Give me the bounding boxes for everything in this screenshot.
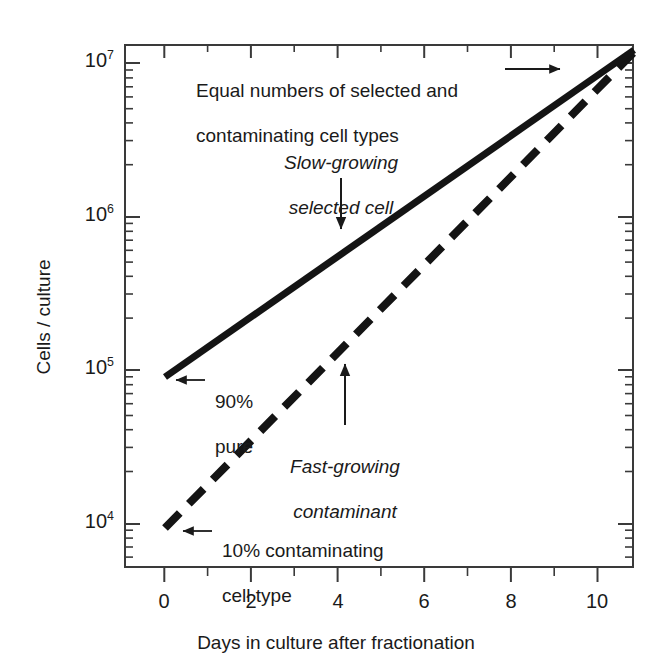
xtick-label-10: 10 [567, 591, 627, 611]
annotation-slow-growing-line1: Slow-growing [251, 152, 431, 174]
annotation-ninety-pure: 90% pure [215, 369, 325, 481]
x-axis-title: Days in culture after fractionation [0, 632, 672, 654]
annotation-slow-growing-line2: selected cell [251, 197, 431, 219]
chart-figure: 107 106 105 104 0 2 4 6 8 10 Days in cul… [0, 0, 672, 665]
xtick-label-0: 0 [134, 591, 194, 611]
annotation-ten-contaminating-line1: 10% contaminating [222, 540, 452, 562]
ytick-label-1e6: 106 [52, 204, 114, 224]
annotation-ten-contaminating-line2: cell type [222, 585, 452, 607]
ytick-label-1e4: 104 [52, 511, 114, 531]
annotation-slow-growing: Slow-growing selected cell [251, 130, 431, 242]
annotation-ninety-pure-line2: pure [215, 436, 325, 458]
ytick-label-1e5: 105 [52, 357, 114, 377]
annotation-ten-contaminating: 10% contaminating cell type [222, 518, 452, 630]
xtick-label-8: 8 [481, 591, 541, 611]
annotation-ninety-pure-line1: 90% [215, 391, 325, 413]
ytick-label-1e7: 107 [52, 50, 114, 70]
annotation-equal-numbers-line1: Equal numbers of selected and [196, 80, 506, 102]
y-axis-title: Cells / culture [33, 237, 55, 397]
